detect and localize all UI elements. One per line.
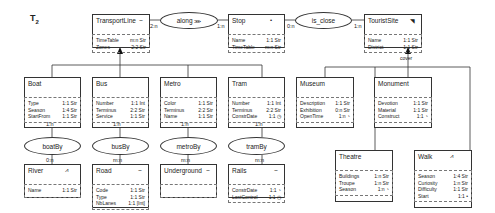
cardinality: 0:n <box>46 157 54 163</box>
relationship-is-close[interactable]: is_close <box>295 12 352 29</box>
entity-name: Museum <box>300 80 325 87</box>
entity-name: TouristSite <box>368 17 398 24</box>
attribute-list: Season1:4 Str Curiosity1:n Str Difficult… <box>414 170 472 202</box>
attribute-row: Season1:n ◔ <box>339 186 389 193</box>
entity-name: River <box>28 167 43 174</box>
attribute-list: Devotion1:1 Str Material1:1 Str Construc… <box>374 97 432 123</box>
entity-touristsite[interactable]: TouristSite◥ Name1:1 Str District1:1 Str <box>364 14 422 48</box>
line-icon: ⌣ <box>274 167 278 174</box>
attribute-list: Name1:1 Str <box>24 184 81 198</box>
cardinality: 1:n <box>255 121 263 127</box>
attribute-row: OpenTime1:n ◔ <box>300 113 350 120</box>
transport-icon: ⋙ <box>194 18 201 24</box>
relationship-busby[interactable]: busBy <box>92 137 149 155</box>
attribute-row: Zones2:2 Str <box>96 44 146 51</box>
entity-name: Theatre <box>339 153 361 160</box>
entity-river[interactable]: River⩘ Name1:1 Str <box>24 164 81 198</box>
entity-name: Boat <box>28 80 41 87</box>
cardinality: 2:n <box>150 23 158 29</box>
relationship-tramby[interactable]: tramBy <box>228 137 285 155</box>
entity-name: Walk <box>418 153 432 160</box>
attribute-row: District1:1 Str <box>368 44 418 51</box>
attribute-row: Start1:1 • <box>418 193 468 200</box>
entity-name: Underground <box>164 167 202 174</box>
attribute-list: Buildings1:n Str Troupe1:n Str Season1:n… <box>335 170 393 196</box>
attribute-list: Name1:1 Str TimeTablem:n Str <box>228 34 285 53</box>
cardinality: 1:n <box>354 23 362 29</box>
polyline-icon: ⩘ <box>450 153 453 160</box>
entity-name: Bus <box>96 80 107 87</box>
cardinality: 1:n <box>113 121 121 127</box>
attribute-list: Number1:1 Int Terminus2:2 Str Service1:1… <box>92 97 149 123</box>
entity-rails[interactable]: Rails⌣ ConstrDate1:1 ◔ LastControl1:1 ◷ <box>228 164 285 198</box>
cardinality: 1:n <box>46 121 54 127</box>
attribute-list: Type1:1 Str Season1:4 Str StartFrom1:1 S… <box>24 97 81 123</box>
entity-theatre[interactable]: Theatre Buildings1:n Str Troupe1:n Str S… <box>335 150 393 202</box>
diagram-title: T2 <box>30 13 39 25</box>
attribute-row: ConstrDate1:1 ◷ <box>232 113 281 120</box>
attribute-list <box>160 184 217 198</box>
attribute-row: Construct1:1 ◔ <box>378 113 428 120</box>
entity-name: Metro <box>164 80 181 87</box>
cardinality: m:n <box>113 157 122 163</box>
point-icon: • <box>270 17 272 23</box>
entity-name: TransportLine <box>96 17 136 24</box>
entity-name: Road <box>96 167 112 174</box>
line-icon: ⌣ <box>138 167 142 174</box>
area-icon: ◥ <box>410 17 415 24</box>
attribute-list: Number1:1 Int Terminus2:2 Str ConstrDate… <box>228 97 285 123</box>
cardinality: m:n <box>181 157 190 163</box>
attribute-row: Service1:1 Str <box>96 113 145 120</box>
line-icon: ⌣ <box>139 17 143 24</box>
cardinality: 1:n <box>217 23 225 29</box>
entity-museum[interactable]: Museum Description1:1 Str Exhibition0:n … <box>296 77 354 128</box>
attribute-list: ConstrDate1:1 ◔ LastControl1:1 ◷ <box>228 184 285 203</box>
attribute-list: TimeTablem:n Str Zones2:2 Str <box>92 34 150 53</box>
relationship-along[interactable]: along ⋙ <box>160 12 218 29</box>
entity-underground[interactable]: Underground⌣ <box>160 164 217 198</box>
attribute-list: Name1:1 Str District1:1 Str <box>364 34 422 53</box>
attribute-row: TimeTablem:n Str <box>232 44 281 51</box>
entity-name: Stop <box>232 17 245 24</box>
entity-transportline[interactable]: TransportLine⌣ TimeTablem:n Str Zones2:2… <box>92 14 150 48</box>
cardinality: 1:n <box>181 121 189 127</box>
attribute-row: Name1:1 Str <box>164 113 213 120</box>
line-icon: ⌣ <box>206 167 210 174</box>
entity-name: Tram <box>232 80 247 87</box>
entity-name: Monument <box>378 80 409 87</box>
attribute-list: Color1:1 Str Terminus2:2 Str Name1:1 Str <box>160 97 217 123</box>
polyline-icon: ⩘ <box>65 167 68 174</box>
generalization-label: cover <box>400 55 412 61</box>
cardinality: 0:n <box>287 23 295 29</box>
relationship-metroby[interactable]: metroBy <box>160 137 217 155</box>
entity-road[interactable]: Road⌣ Code1:1 Str Type1:1 Str NbLanes1:1… <box>92 164 149 208</box>
attribute-row: StartFrom1:1 Str <box>28 113 77 120</box>
attribute-list: Code1:1 Str Type1:1 Str NbLanes1:1 [Int] <box>92 184 149 210</box>
attribute-row: LastControl1:1 ◷ <box>232 194 281 201</box>
attribute-list: Description1:1 Str Exhibition0:n Str Ope… <box>296 97 354 123</box>
attribute-row: Name1:1 Str <box>28 187 77 194</box>
entity-name: Rails <box>232 167 246 174</box>
relationship-boatby[interactable]: boatBy <box>24 137 81 155</box>
entity-monument[interactable]: Monument Devotion1:1 Str Material1:1 Str… <box>374 77 432 128</box>
attribute-row: NbLanes1:1 [Int] <box>96 200 145 207</box>
entity-stop[interactable]: Stop• Name1:1 Str TimeTablem:n Str <box>228 14 285 48</box>
entity-walk[interactable]: Walk⩘ Season1:4 Str Curiosity1:n Str Dif… <box>414 150 472 208</box>
cardinality: m:n <box>255 157 264 163</box>
